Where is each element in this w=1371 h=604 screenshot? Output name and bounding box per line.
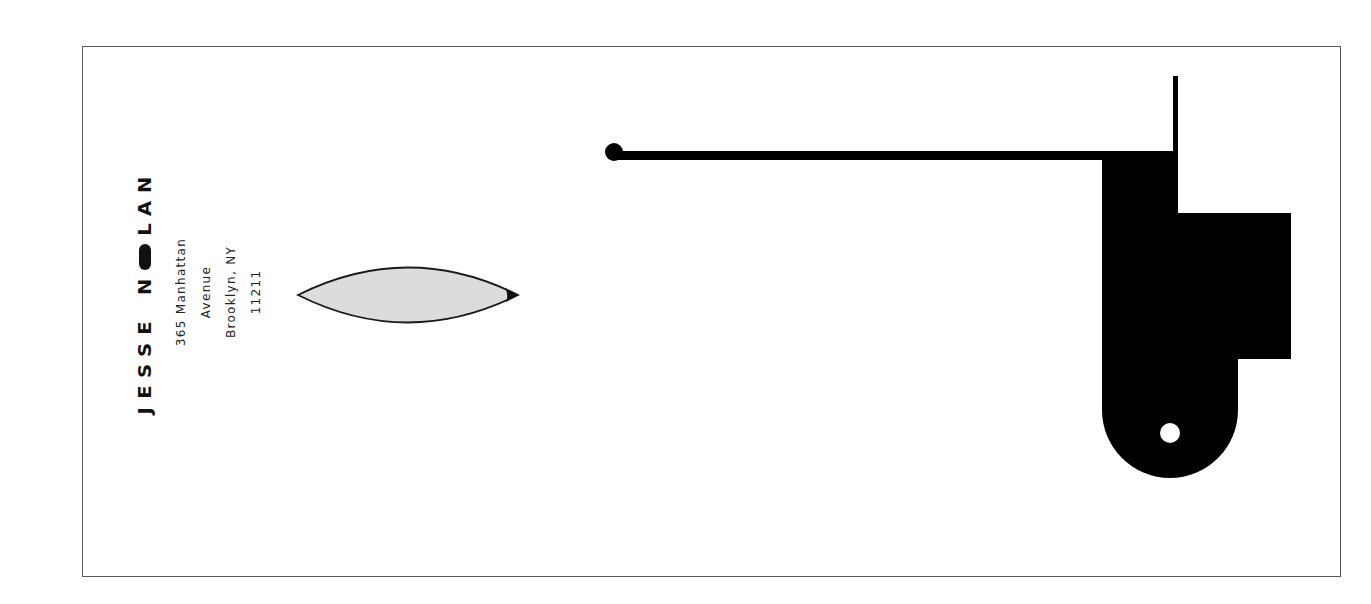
keyhole-icon [1160, 423, 1180, 443]
leaf-lens-icon [298, 268, 518, 323]
key-lever-shape-icon [1102, 151, 1291, 478]
letterhead-artwork [0, 0, 1371, 604]
lever-bar [614, 151, 1178, 160]
